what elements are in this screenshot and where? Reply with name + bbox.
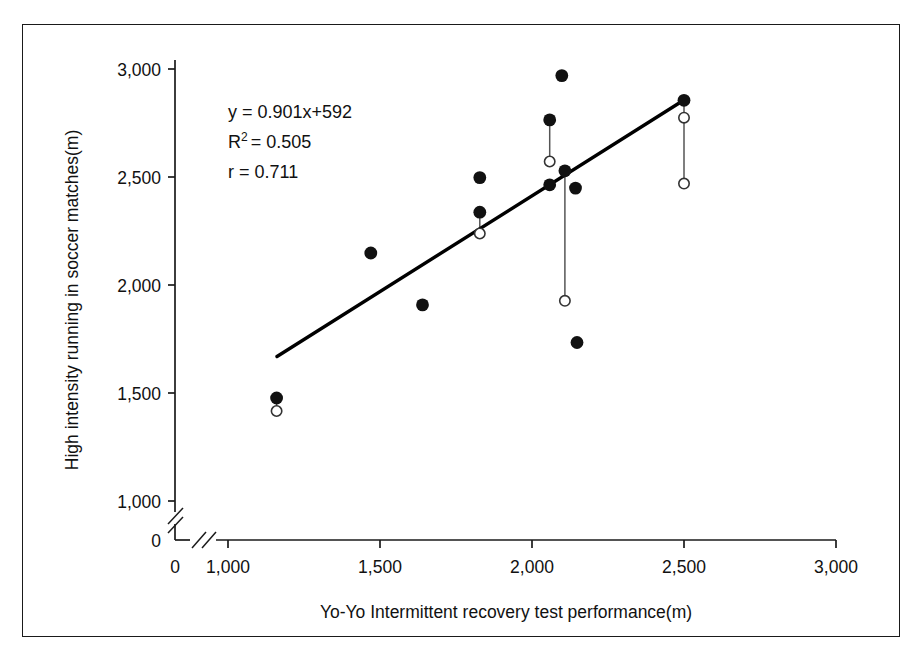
data-point-open — [271, 406, 281, 416]
data-point-open — [475, 228, 485, 238]
y-axis-title: High intensity running in soccer matches… — [62, 130, 82, 470]
x-tick-label-2000: 2,000 — [510, 557, 554, 577]
y-tick-label-1000: 1,000 — [117, 492, 161, 512]
data-point-filled — [543, 178, 556, 191]
pair-connector-lines — [277, 100, 684, 411]
x-tick-label-3000: 3,000 — [814, 557, 858, 577]
data-point-filled — [555, 69, 568, 82]
data-point-filled — [270, 392, 283, 405]
y-tick-label-2500: 2,500 — [117, 168, 161, 188]
data-point-open — [679, 178, 689, 188]
r-squared-value: = 0.505 — [251, 132, 312, 152]
data-point-filled — [416, 299, 429, 312]
r-squared-annotation: R2= 0.505 — [228, 130, 311, 152]
y-axis-origin-label: 0 — [151, 531, 161, 551]
data-point-filled — [543, 114, 556, 127]
x-axis-title: Yo-Yo Intermittent recovery test perform… — [320, 602, 692, 622]
regression-equation: y = 0.901x+592 — [228, 102, 352, 122]
data-point-filled — [569, 182, 582, 195]
x-tick-label-1000: 1,000 — [206, 557, 250, 577]
data-point-filled — [678, 94, 691, 107]
data-point-open — [545, 156, 555, 166]
y-axis-tick-labels: 3,000 2,500 2,000 1,500 1,000 0 — [117, 60, 161, 551]
data-point-filled — [571, 336, 584, 349]
x-tick-label-1500: 1,500 — [358, 557, 402, 577]
y-tick-label-3000: 3,000 — [117, 60, 161, 80]
r-squared-exponent: 2 — [241, 130, 248, 144]
y-axis-ticks — [168, 69, 175, 501]
r-annotation: r = 0.711 — [228, 162, 298, 182]
x-axis-tick-labels: 0 1,000 1,500 2,000 2,500 3,000 — [170, 557, 858, 577]
data-point-filled — [559, 164, 572, 177]
x-axis-ticks — [228, 540, 836, 548]
x-tick-label-2500: 2,500 — [662, 557, 706, 577]
y-tick-label-1500: 1,500 — [117, 384, 161, 404]
data-point-filled — [473, 206, 486, 219]
r-squared-prefix: R — [228, 132, 241, 152]
scatter-plot: 3,000 2,500 2,000 1,500 1,000 0 0 1,000 … — [0, 0, 923, 669]
y-tick-label-2000: 2,000 — [117, 276, 161, 296]
data-point-open — [679, 113, 689, 123]
data-point-open — [560, 296, 570, 306]
open-circle-markers — [271, 113, 689, 417]
data-point-filled — [364, 247, 377, 260]
data-point-filled — [473, 171, 486, 184]
regression-annotation: y = 0.901x+592 R2= 0.505 r = 0.711 — [228, 102, 352, 182]
x-axis-origin-label: 0 — [170, 557, 180, 577]
figure-container: 3,000 2,500 2,000 1,500 1,000 0 0 1,000 … — [0, 0, 923, 669]
